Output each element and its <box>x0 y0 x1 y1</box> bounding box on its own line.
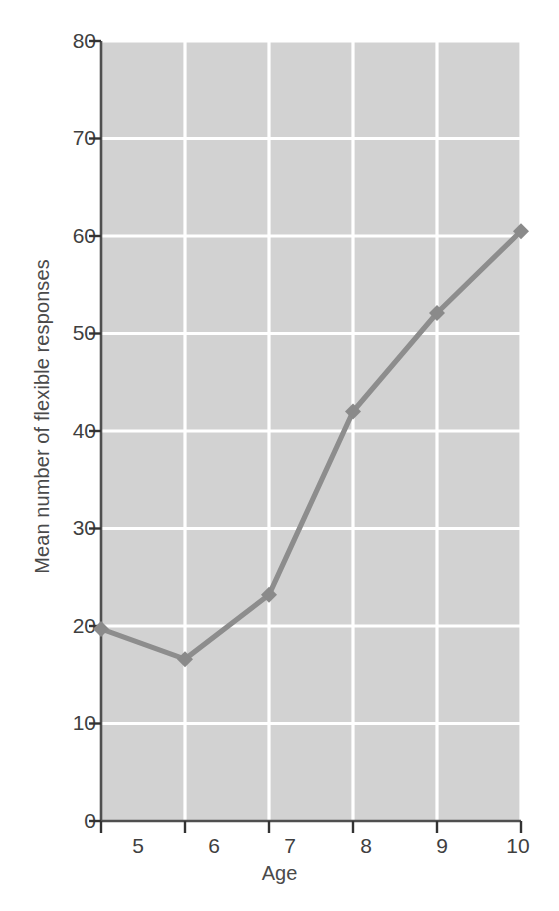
plot-area <box>0 0 559 911</box>
chart-figure: Mean number of flexible responses Age 80… <box>0 0 559 911</box>
